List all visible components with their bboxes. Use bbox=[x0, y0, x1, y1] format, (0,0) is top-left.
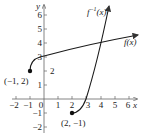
x-axis-ticks bbox=[16, 96, 129, 99]
f-inverse-label-sup: −1 bbox=[90, 6, 97, 12]
point-label-f-start: (−1, 2) bbox=[4, 76, 29, 86]
y-tick-label: 2 bbox=[50, 66, 55, 76]
y-axis-ticks bbox=[44, 15, 47, 127]
y-tick-label: 1 bbox=[38, 80, 43, 90]
point-f-inverse-start bbox=[70, 111, 74, 115]
x-tick-labels: −2 −1 0 1 2 3 4 5 6 bbox=[9, 100, 131, 110]
y-tick-label: 4 bbox=[38, 38, 43, 48]
y-tick-label: 5 bbox=[38, 24, 43, 34]
f-inverse-curve bbox=[72, 6, 109, 113]
point-label-f-inverse-start: (2, −1) bbox=[61, 118, 86, 128]
x-tick-label: −1 bbox=[23, 100, 33, 110]
y-tick-label: 6 bbox=[38, 10, 43, 20]
x-tick-label: 3 bbox=[86, 100, 91, 110]
x-tick-label: 1 bbox=[56, 100, 61, 110]
x-tick-label: 4 bbox=[99, 100, 104, 110]
f-label: f(x) bbox=[124, 37, 137, 47]
point-f-start bbox=[28, 69, 32, 73]
function-inverse-diagram: −2 −1 0 1 2 3 4 5 6 x −2 −1 1 2 3 4 5 6 … bbox=[0, 0, 142, 138]
f-inverse-label: f−1(x) bbox=[87, 6, 107, 17]
y-tick-label: −1 bbox=[32, 108, 42, 118]
x-tick-label: 5 bbox=[113, 100, 118, 110]
x-tick-label: 2 bbox=[70, 100, 75, 110]
y-tick-labels: −2 −1 1 2 3 4 5 6 bbox=[32, 10, 54, 132]
x-tick-label: −2 bbox=[9, 100, 19, 110]
y-tick-label: −2 bbox=[32, 122, 42, 132]
f-inverse-label-arg: (x) bbox=[97, 7, 107, 17]
y-axis-label: y bbox=[35, 1, 40, 11]
x-tick-label: 6 bbox=[126, 100, 131, 110]
x-axis-label: x bbox=[132, 100, 137, 110]
f-curve bbox=[30, 35, 138, 71]
